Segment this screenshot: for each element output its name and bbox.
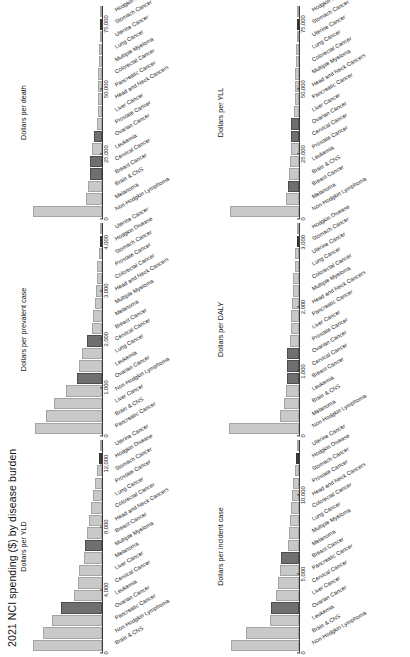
bar[interactable] [100,31,102,42]
bar[interactable] [87,527,102,538]
bar[interactable] [286,385,299,396]
bar[interactable] [229,423,299,434]
bar[interactable] [290,335,299,346]
bar[interactable] [99,453,102,464]
bar[interactable] [61,602,102,613]
bar[interactable] [95,298,102,309]
bar[interactable] [35,423,102,434]
axis-tick-label: 3,000 [103,284,109,299]
bar[interactable] [230,206,299,217]
bar[interactable] [97,118,102,129]
bar[interactable] [98,68,102,79]
category-label-cell: Pancreatic Cancer [311,310,410,321]
bar[interactable] [91,502,102,513]
category-label-cell: Cervical Cancer [114,577,214,588]
bar[interactable] [286,193,299,204]
bar[interactable] [293,273,299,284]
bar[interactable] [295,465,299,476]
bar[interactable] [280,410,299,421]
bar[interactable] [100,223,102,234]
bar[interactable] [97,261,102,272]
bar[interactable] [284,398,299,409]
bar[interactable] [291,310,299,321]
bar[interactable] [287,373,299,384]
bar[interactable] [289,168,299,179]
bar[interactable] [291,502,299,513]
bar[interactable] [287,360,299,371]
bar[interactable] [92,323,102,334]
bar[interactable] [246,627,299,638]
bar[interactable] [98,106,102,117]
bar[interactable] [290,515,299,526]
bar[interactable] [86,193,102,204]
bar[interactable] [278,577,299,588]
bar[interactable] [79,565,102,576]
bar[interactable] [293,285,299,296]
bar[interactable] [78,577,102,588]
bar[interactable] [79,360,102,371]
bar[interactable] [291,323,299,334]
bar[interactable] [46,410,102,421]
bar[interactable] [296,44,299,55]
bar[interactable] [290,156,299,167]
bar[interactable] [93,490,102,501]
bar[interactable] [288,181,299,192]
bar[interactable] [292,490,299,501]
bar[interactable] [90,168,102,179]
bar[interactable] [231,640,299,651]
bar[interactable] [43,627,102,638]
bar[interactable] [85,540,102,551]
bar[interactable] [98,81,102,92]
bar[interactable] [33,640,102,651]
bar[interactable] [270,615,299,626]
bar[interactable] [89,515,102,526]
bar[interactable] [52,615,102,626]
bar[interactable] [66,385,103,396]
bar[interactable] [271,602,299,613]
bar[interactable] [295,261,299,272]
axis-tick-label: 10,000 [300,486,306,504]
bar[interactable] [276,590,299,601]
bar[interactable] [296,56,299,67]
bar[interactable] [100,440,102,451]
bar[interactable] [99,56,102,67]
bar[interactable] [87,335,102,346]
bar[interactable] [297,440,299,451]
bar[interactable] [291,131,299,142]
bar[interactable] [98,93,102,104]
bar[interactable] [97,465,102,476]
bar[interactable] [93,310,102,321]
bar[interactable] [77,373,102,384]
bar[interactable] [295,248,299,259]
bar[interactable] [54,398,102,409]
bar[interactable] [295,68,299,79]
bar[interactable] [99,248,102,259]
bar[interactable] [97,273,102,284]
bar[interactable] [295,81,299,92]
bar[interactable] [293,478,299,489]
bar[interactable] [294,106,299,117]
category-label-cell: Leukemia [311,156,410,167]
bar[interactable] [297,6,299,17]
bar[interactable] [82,348,102,359]
bar[interactable] [74,590,102,601]
bar[interactable] [90,156,102,167]
bar[interactable] [100,6,102,17]
bar[interactable] [295,93,299,104]
bar[interactable] [281,552,299,563]
bar[interactable] [292,298,299,309]
axis-tick-label: 50,000 [300,80,306,98]
bar[interactable] [94,131,102,142]
bar[interactable] [84,552,102,563]
bar[interactable] [33,206,102,217]
bar[interactable] [288,540,299,551]
bar[interactable] [291,118,299,129]
bar[interactable] [95,478,102,489]
bar[interactable] [297,223,299,234]
bar[interactable] [99,44,102,55]
bar[interactable] [296,453,299,464]
bar[interactable] [88,181,102,192]
bar[interactable] [289,527,299,538]
bar[interactable] [297,31,299,42]
bar[interactable] [287,348,299,359]
